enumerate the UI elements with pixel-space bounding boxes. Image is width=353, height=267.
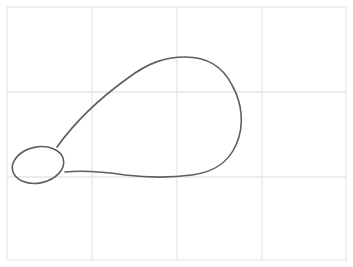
drawing-canvas[interactable] bbox=[0, 0, 353, 267]
